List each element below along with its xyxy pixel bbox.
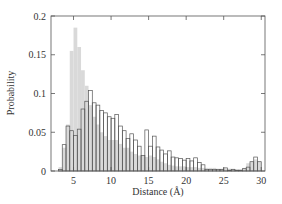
histogram-bar: [96, 125, 100, 172]
histogram-bar: [100, 132, 104, 171]
histogram-bar: [160, 162, 164, 171]
y-tick-label: 0: [41, 166, 46, 177]
histogram-bar: [66, 125, 70, 172]
histogram-bar: [164, 163, 168, 171]
histogram-bar: [70, 51, 74, 171]
histogram-bar: [152, 157, 156, 171]
histogram-bar: [149, 156, 153, 172]
histogram-bar: [175, 166, 179, 171]
histogram-bar: [59, 167, 63, 171]
histogram-bar: [190, 167, 194, 171]
y-tick-label: 0.05: [29, 127, 47, 138]
histogram-bar: [126, 148, 130, 171]
histogram-bar: [156, 159, 160, 171]
histogram-bar: [254, 159, 258, 171]
x-tick-label: 15: [144, 175, 154, 186]
x-axis-label: Distance (Å): [132, 186, 183, 198]
y-tick-label: 0.15: [29, 49, 47, 60]
y-tick-label: 0.2: [34, 11, 47, 22]
histogram-bar: [182, 166, 186, 171]
x-tick-label: 5: [71, 175, 76, 186]
histogram-bar: [85, 86, 89, 171]
histogram-bar: [111, 140, 115, 171]
histogram-bar: [92, 117, 96, 171]
histogram-bar: [179, 166, 183, 171]
histogram-bar: [104, 136, 108, 171]
histogram-bar: [107, 140, 111, 171]
histogram-bar: [89, 105, 93, 171]
x-tick-label: 10: [106, 175, 116, 186]
histogram-bar: [119, 144, 123, 171]
histogram-bar: [171, 166, 175, 171]
histogram-bar: [137, 156, 141, 172]
histogram-bar: [145, 157, 149, 171]
y-axis-label: Probability: [5, 71, 16, 115]
histogram-bar: [201, 168, 205, 171]
x-tick-label: 25: [219, 175, 229, 186]
histogram-bar: [81, 70, 85, 171]
histogram-bar: [141, 156, 145, 172]
histogram-bar: [134, 154, 138, 171]
histogram-bar: [130, 152, 134, 171]
histogram-bar: [167, 165, 171, 171]
histogram-bar: [194, 167, 198, 171]
x-tick-label: 30: [256, 175, 266, 186]
histogram-bar: [197, 168, 201, 171]
histogram-bar: [115, 140, 119, 171]
histogram-bar: [77, 47, 81, 171]
histogram-bar: [62, 148, 66, 171]
histogram-chart: 51015202530 00.050.10.150.2 Distance (Å)…: [0, 0, 282, 204]
histogram-bar: [257, 162, 261, 171]
histogram-bar: [122, 148, 126, 171]
x-tick-label: 20: [181, 175, 191, 186]
y-tick-label: 0.1: [34, 88, 47, 99]
histogram-bar: [250, 162, 254, 171]
histogram-bar: [186, 167, 190, 171]
histogram-bar: [74, 28, 78, 171]
